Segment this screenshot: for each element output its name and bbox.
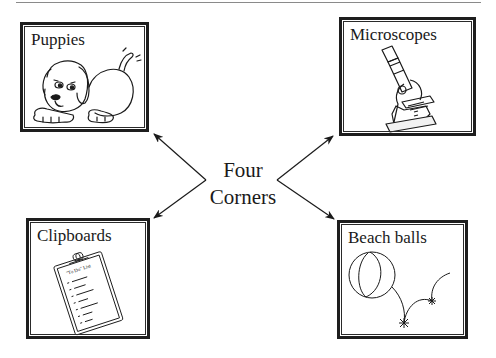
center-label-line2: Corners <box>205 185 281 209</box>
corner-card-microscopes: Microscopes <box>339 17 476 136</box>
corner-label-beach-balls: Beach balls <box>348 229 427 247</box>
corner-card-puppies: Puppies <box>20 22 149 132</box>
corner-label-microscopes: Microscopes <box>350 26 437 44</box>
microscope-icon <box>364 44 454 134</box>
arrow-to-puppies <box>154 134 206 180</box>
corner-card-clipboards: Clipboards "To Do" List <box>26 218 150 339</box>
puppy-icon <box>29 47 147 129</box>
corner-label-clipboards: Clipboards <box>37 227 112 245</box>
corner-card-beach-balls: Beach balls <box>337 220 468 339</box>
arrow-to-clipboards <box>154 180 206 218</box>
arrow-to-microscopes <box>277 136 333 180</box>
arrow-to-beach-balls <box>277 180 334 219</box>
clipboard-icon: "To Do" List <box>49 247 129 337</box>
beach-ball-icon <box>346 249 464 337</box>
center-label-line1: Four <box>205 158 281 182</box>
